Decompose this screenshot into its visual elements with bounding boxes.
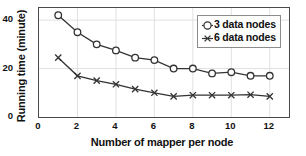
chart-legend: 3 data nodes 6 data nodes xyxy=(197,15,281,48)
data-point-circle xyxy=(266,73,273,80)
data-point-circle xyxy=(170,65,177,72)
y-axis-title: Running time (minute) xyxy=(15,4,27,128)
series-line xyxy=(58,58,270,97)
data-point-circle xyxy=(132,54,139,61)
legend-label: 6 data nodes xyxy=(214,31,276,44)
data-point-circle xyxy=(74,29,81,36)
x-tick-label: 2 xyxy=(64,120,88,131)
x-marker-icon xyxy=(201,31,214,44)
legend-label: 3 data nodes xyxy=(214,18,276,31)
chart-figure: Running time (minute) 02040 024681012 Nu… xyxy=(0,0,306,156)
y-tick-label: 40 xyxy=(0,13,13,24)
x-tick-label: 10 xyxy=(218,120,242,131)
x-tick-label: 8 xyxy=(180,120,204,131)
circle-marker-icon xyxy=(201,18,214,31)
x-tick-label: 0 xyxy=(26,120,50,131)
x-axis-title: Number of mapper per node xyxy=(22,136,302,148)
data-point-circle xyxy=(55,12,62,19)
data-point-circle xyxy=(93,41,100,48)
legend-entry: 6 data nodes xyxy=(201,31,276,44)
data-point-circle xyxy=(228,69,235,76)
data-point-x xyxy=(55,55,61,61)
data-point-circle xyxy=(209,70,216,77)
y-tick-label: 0 xyxy=(0,110,13,121)
legend-entry: 3 data nodes xyxy=(201,18,276,31)
y-tick-label: 20 xyxy=(0,62,13,73)
data-point-circle xyxy=(151,57,158,64)
data-point-circle xyxy=(247,73,254,80)
data-point-circle xyxy=(113,47,120,54)
x-tick-label: 12 xyxy=(257,120,281,131)
x-tick-label: 4 xyxy=(103,120,127,131)
data-point-circle xyxy=(190,65,197,72)
x-tick-label: 6 xyxy=(141,120,165,131)
